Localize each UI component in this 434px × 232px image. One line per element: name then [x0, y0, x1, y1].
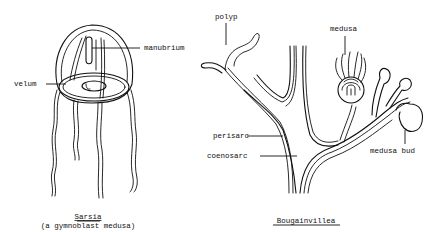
hydrozoa-diagram: manubrium velum Sarsia (a gymnoblast med… [0, 0, 434, 232]
label-medusa: medusa [330, 25, 358, 33]
label-manubrium: manubrium [144, 44, 185, 52]
label-medusa-bud: medusa bud [370, 147, 415, 155]
caption-sarsia-subtitle: (a gymnoblast medusa) [41, 222, 136, 230]
caption-bougainvillea: Bougainvillea [277, 217, 336, 225]
label-perisarc: perisarc [213, 132, 249, 140]
bougainvillea-drawing [201, 23, 422, 193]
label-polyp: polyp [215, 13, 238, 21]
caption-sarsia: Sarsia [74, 213, 102, 221]
label-coenosarc: coenosarc [207, 152, 248, 160]
label-velum: velum [14, 80, 37, 88]
sarsia-drawing [46, 25, 140, 198]
